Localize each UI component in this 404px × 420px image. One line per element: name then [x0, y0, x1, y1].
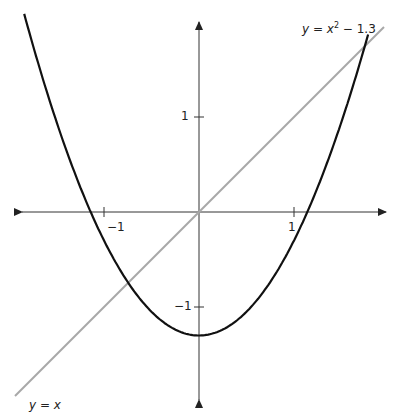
line-equation-label: y = x [29, 399, 61, 411]
parabola-curve [24, 14, 368, 336]
parabola-equation-label: y = x2 − 1.3 [302, 22, 376, 35]
x-tick-label-1: 1 [288, 221, 296, 233]
coordinate-plane [0, 0, 404, 420]
x-tick-label-neg1: −1 [107, 221, 125, 233]
y-tick-label-1: 1 [181, 110, 189, 122]
y-tick-label-neg1: −1 [174, 300, 192, 312]
